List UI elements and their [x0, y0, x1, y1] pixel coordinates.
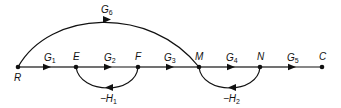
gain-label-G3: G3	[164, 53, 176, 64]
gain-label-minus-H1: −H1	[100, 94, 117, 105]
node-label-E: E	[73, 52, 80, 62]
node-R	[16, 65, 21, 70]
gain-label-G1: G1	[44, 53, 56, 64]
node-label-M: M	[195, 52, 203, 62]
arrowhead-H1	[105, 84, 113, 91]
node-label-N: N	[257, 52, 264, 62]
gain-label-G2: G2	[104, 53, 116, 64]
node-M	[197, 65, 202, 70]
node-label-F: F	[135, 52, 141, 62]
node-C	[320, 65, 325, 70]
branch-minus-H1	[76, 67, 138, 88]
node-label-R: R	[14, 73, 21, 83]
node-F	[136, 65, 141, 70]
node-N	[258, 65, 263, 70]
arrowhead-H2	[228, 84, 236, 91]
node-E	[74, 65, 79, 70]
node-label-C: C	[319, 52, 326, 62]
gain-label-G5: G5	[287, 53, 299, 64]
branch-minus-H2	[199, 67, 260, 88]
gain-label-minus-H2: −H2	[223, 94, 240, 105]
gain-label-G6: G6	[101, 5, 113, 16]
signal-flow-graph: R E F M N C G1 G2 G3 G4 G5 G6 −H1 −H2	[0, 0, 341, 108]
gain-label-G4: G4	[226, 53, 238, 64]
